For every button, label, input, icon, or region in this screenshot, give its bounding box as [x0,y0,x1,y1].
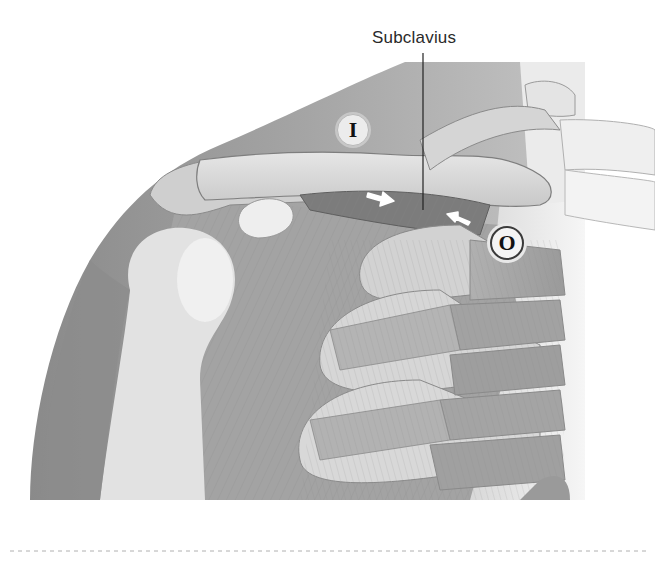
shoulder-illustration [0,0,655,577]
anatomy-figure: Subclavius I O [0,0,655,577]
origin-marker: O [490,226,524,260]
subclavius-label: Subclavius [372,28,456,48]
insertion-marker: I [337,114,369,146]
rib-cage [299,225,570,500]
